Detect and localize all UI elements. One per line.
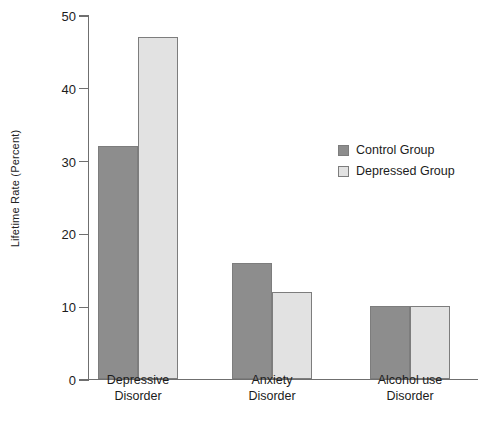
y-tick-30	[79, 161, 89, 162]
y-tick-label-0: 0	[36, 373, 76, 388]
y-tick-40	[79, 88, 89, 89]
bar-depressed-group-1	[138, 37, 178, 379]
plot-area: 01020304050	[88, 16, 478, 380]
x-category-label-3: Alcohol use Disorder	[355, 372, 465, 404]
x-category-label-1: Depressive Disorder	[83, 372, 193, 404]
legend-item-depressed-group: Depressed Group	[338, 163, 455, 179]
legend-swatch-icon-depressed-group	[338, 166, 349, 177]
y-tick-label-20: 20	[36, 227, 76, 242]
y-tick-label-50: 50	[36, 9, 76, 24]
legend-label-depressed-group: Depressed Group	[356, 164, 455, 178]
bar-control-group-2	[232, 263, 272, 379]
legend-label-control-group: Control Group	[356, 143, 435, 157]
y-tick-label-30: 30	[36, 154, 76, 169]
y-tick-label-40: 40	[36, 81, 76, 96]
chart-legend: Control Group Depressed Group	[338, 142, 455, 184]
x-category-label-2: Anxiety Disorder	[217, 372, 327, 404]
y-tick-20	[79, 234, 89, 235]
y-axis-title: Lifetime Rate (Percent)	[0, 0, 30, 405]
y-tick-10	[79, 307, 89, 308]
y-axis-line	[88, 16, 89, 380]
y-tick-50	[79, 15, 89, 16]
bar-chart: Lifetime Rate (Percent) 01020304050 Depr…	[0, 0, 481, 433]
legend-swatch-icon-control-group	[338, 145, 349, 156]
bar-control-group-1	[98, 146, 138, 379]
bar-depressed-group-2	[272, 292, 312, 379]
bar-depressed-group-3	[410, 306, 450, 379]
legend-item-control-group: Control Group	[338, 142, 455, 158]
y-tick-label-10: 10	[36, 300, 76, 315]
bar-control-group-3	[370, 306, 410, 379]
